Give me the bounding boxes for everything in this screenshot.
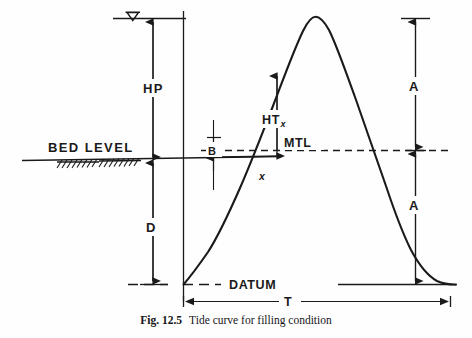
- period-label: T: [284, 295, 292, 309]
- x-label: x: [258, 170, 266, 182]
- tide-diagram-svg: BED LEVEL MTL MTL DATUM HP: [0, 0, 472, 338]
- hp-dimension: HP: [143, 22, 165, 157]
- b-label: B: [208, 145, 216, 157]
- hp-label: HP: [143, 81, 164, 96]
- water-level-triangle-icon: [126, 12, 141, 20]
- amplitude-lower-label: A: [409, 198, 420, 213]
- d-label: D: [146, 220, 157, 235]
- d-dimension: D: [140, 163, 168, 285]
- mtl-label-text: MTL: [284, 136, 311, 150]
- figure-number: Fig. 12.5: [140, 314, 182, 326]
- b-dimension: B: [206, 137, 222, 171]
- figure-caption: Fig. 12.5Tide curve for filling conditio…: [0, 314, 472, 326]
- bed-level-label: BED LEVEL: [48, 140, 134, 155]
- amplitude-upper-label: A: [409, 79, 420, 94]
- figure-caption-text: Tide curve for filling condition: [189, 314, 332, 326]
- amplitude-upper-dimension: A: [401, 19, 430, 151]
- period-dimension: T: [184, 293, 451, 310]
- tide-curve-figure: BED LEVEL MTL MTL DATUM HP: [0, 0, 472, 338]
- datum-label: DATUM: [229, 278, 276, 292]
- amplitude-lower-dimension: A: [408, 154, 424, 281]
